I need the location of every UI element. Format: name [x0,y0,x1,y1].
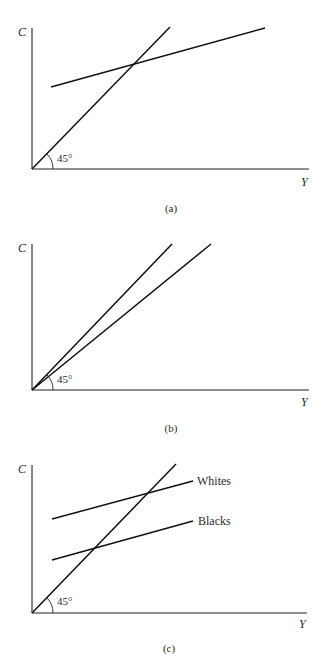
line-45-degree [32,27,170,169]
whites-line [52,481,193,519]
angle-label: 45° [57,595,72,607]
x-axis-label: Y [299,617,307,631]
angle-arc [47,598,53,613]
figure: C Y 45° (a) C Y 45° (b) C Y 45° Whites B… [0,0,329,657]
x-axis-label: Y [301,175,309,189]
consumption-line [51,28,265,87]
whites-label: Whites [197,474,231,488]
blacks-line [52,521,193,560]
panel-caption: (b) [165,422,178,435]
angle-arc [47,154,53,169]
angle-label: 45° [57,152,72,164]
y-axis-label: C [18,241,27,255]
panel-caption: (a) [165,202,178,215]
y-axis-label: C [18,25,27,39]
line-45-degree [32,464,176,613]
line-45-degree [32,244,172,390]
x-axis-label: Y [301,395,309,409]
angle-label: 45° [57,373,72,385]
panel-a: C Y 45° (a) [18,25,309,215]
proportional-line [32,244,211,390]
y-axis-label: C [18,462,27,476]
blacks-label: Blacks [198,514,231,528]
panel-b: C Y 45° (b) [18,241,309,435]
panel-caption: (c) [163,642,176,655]
panel-c: C Y 45° Whites Blacks (c) [18,462,307,655]
